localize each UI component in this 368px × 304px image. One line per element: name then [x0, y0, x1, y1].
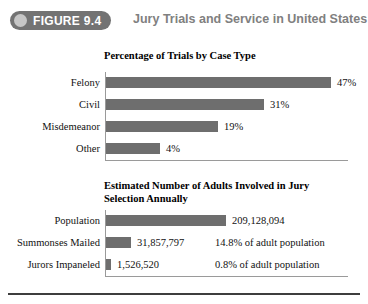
chart-title-line-2: Selection Annually [104, 193, 188, 204]
value-label: 19% [224, 116, 243, 138]
bar [106, 215, 226, 226]
bar [106, 259, 111, 270]
bar [106, 99, 264, 110]
bar [106, 121, 218, 132]
chart-row: Misdemeanor19% [0, 116, 368, 138]
chart-title-line-1: Estimated Number of Adults Involved in J… [104, 180, 309, 191]
chart-title: Percentage of Trials by Case Type [104, 50, 334, 63]
figure-header: FIGURE 9.4 Jury Trials and Service in Un… [0, 0, 368, 40]
bar [106, 77, 331, 88]
figure-badge: FIGURE 9.4 [10, 11, 111, 30]
value-label: 4% [166, 138, 180, 160]
category-label: Civil [0, 94, 100, 116]
figure-number-label: FIGURE 9.4 [33, 15, 101, 27]
value-label: 31% [270, 94, 289, 116]
circle-icon [14, 14, 27, 27]
category-label: Jurors Impaneled [0, 254, 100, 276]
category-label: Summonses Mailed [0, 232, 100, 254]
annotation-label: 14.8% of adult population [215, 232, 325, 254]
value-label: 47% [337, 72, 356, 94]
category-label: Population [0, 210, 100, 232]
chart-row: Felony47% [0, 72, 368, 94]
bar [106, 143, 160, 154]
value-label: 31,857,797 [137, 232, 184, 254]
chart-title: Estimated Number of Adults Involved in J… [104, 180, 334, 205]
chart-row: Jurors Impaneled1,526,5200.8% of adult p… [0, 254, 368, 276]
figure-title: Jury Trials and Service in United States [133, 13, 367, 27]
footer-divider [8, 293, 360, 295]
chart-row: Population209,128,094 [0, 210, 368, 232]
value-label: 209,128,094 [232, 210, 285, 232]
x-axis-line [105, 160, 348, 161]
bar [106, 237, 131, 248]
chart-row: Civil31% [0, 94, 368, 116]
value-label: 1,526,520 [117, 254, 159, 276]
chart-row: Other4% [0, 138, 368, 160]
category-label: Other [0, 138, 100, 160]
category-label: Misdemeanor [0, 116, 100, 138]
category-label: Felony [0, 72, 100, 94]
chart-row: Summonses Mailed31,857,79714.8% of adult… [0, 232, 368, 254]
x-axis-line [105, 276, 348, 277]
annotation-label: 0.8% of adult population [215, 254, 319, 276]
